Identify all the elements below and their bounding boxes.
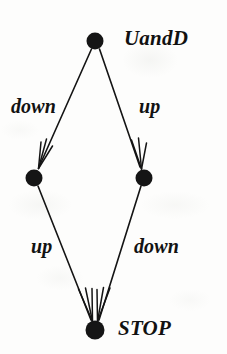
edge-down-lower-arrowhead (97, 288, 110, 322)
node-stop[interactable] (86, 321, 105, 340)
edge-label-up-lower: up (31, 236, 52, 256)
node-right[interactable] (136, 170, 153, 187)
edge-group (38, 49, 147, 322)
edge-label-down-lower: down (134, 236, 179, 256)
node-label-uandd: UandD (124, 28, 188, 49)
node-uandd[interactable] (87, 33, 104, 50)
node-label-stop: STOP (118, 318, 171, 339)
node-left[interactable] (26, 170, 43, 187)
node-group (26, 33, 153, 340)
diagram-canvas: UandD STOP down up up down (0, 0, 227, 354)
state-transition-graph (0, 0, 227, 354)
edge-label-down-upper: down (11, 96, 56, 116)
edge-up-lower-arrowhead (79, 288, 93, 322)
edge-label-up-upper: up (139, 96, 160, 116)
